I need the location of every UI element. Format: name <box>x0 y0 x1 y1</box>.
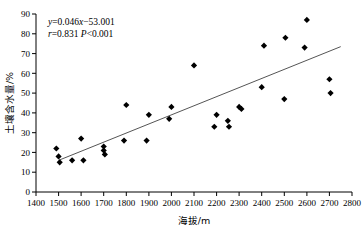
data-point-marker <box>304 17 310 23</box>
equation-tail: −53.001 <box>83 17 115 27</box>
y-axis-ticks <box>32 14 36 192</box>
x-tick-label: 1400 <box>27 198 46 208</box>
data-point-marker <box>226 124 232 130</box>
data-point-marker <box>168 104 174 110</box>
x-tick-label: 2100 <box>185 198 204 208</box>
x-tick-label: 2000 <box>162 198 181 208</box>
y-tick-label: 70 <box>21 49 31 59</box>
x-tick-label: 1700 <box>95 198 114 208</box>
equation-body: =0.046 <box>52 17 79 27</box>
data-point-marker <box>80 157 86 163</box>
x-tick-label: 1900 <box>140 198 159 208</box>
data-point-marker <box>213 112 219 118</box>
data-point-marker <box>121 137 127 143</box>
statistics-annotation: r=0.831 P<0.001 <box>48 29 114 39</box>
data-point-marker <box>146 112 152 118</box>
y-tick-label: 60 <box>21 69 31 79</box>
x-tick-label: 2500 <box>275 198 294 208</box>
axis-lines <box>36 14 352 192</box>
data-point-marker <box>53 145 59 151</box>
scatter-points <box>53 17 333 166</box>
y-axis-title: 土壤含水量/% <box>4 72 15 134</box>
y-tick-label: 50 <box>21 88 31 98</box>
data-point-marker <box>327 90 333 96</box>
data-point-marker <box>326 76 332 82</box>
data-point-marker <box>57 159 63 165</box>
y-tick-label: 80 <box>21 29 31 39</box>
y-tick-label: 90 <box>21 9 31 19</box>
data-point-marker <box>302 45 308 51</box>
x-axis-tick-labels: 1400 1500 1600 1700 1800 1900 2000 2100 … <box>27 198 362 208</box>
y-tick-label: 0 <box>26 187 31 197</box>
y-axis-tick-labels: 0 10 20 30 40 50 60 70 80 90 <box>21 9 31 197</box>
y-tick-label: 40 <box>21 108 31 118</box>
trendline-segment <box>59 47 341 161</box>
data-point-marker <box>78 136 84 142</box>
regression-equation-annotation: y=0.046x−53.001 <box>47 17 115 27</box>
chart-figure: 0 10 20 30 40 50 60 70 80 90 <box>0 0 364 234</box>
x-tick-label: 2800 <box>343 198 362 208</box>
data-point-marker <box>191 62 197 68</box>
x-tick-label: 2300 <box>230 198 249 208</box>
data-point-marker <box>259 84 265 90</box>
x-tick-label: 1800 <box>117 198 136 208</box>
x-axis-title: 海拔/m <box>178 215 210 226</box>
data-point-marker <box>69 157 75 163</box>
x-tick-label: 1600 <box>72 198 91 208</box>
y-tick-label: 10 <box>21 167 31 177</box>
scatter-plot: 0 10 20 30 40 50 60 70 80 90 <box>0 0 364 234</box>
data-point-marker <box>225 118 231 124</box>
x-tick-label: 2700 <box>320 198 339 208</box>
stats-r-value: =0.831 <box>52 29 79 39</box>
data-point-marker <box>55 153 61 159</box>
y-tick-label: 30 <box>21 128 31 138</box>
x-tick-label: 1500 <box>50 198 69 208</box>
data-point-marker <box>144 137 150 143</box>
data-point-marker <box>123 102 129 108</box>
x-axis-ticks <box>36 192 352 196</box>
stats-p-value: <0.001 <box>87 29 114 39</box>
x-tick-label: 2600 <box>298 198 317 208</box>
data-point-marker <box>282 35 288 41</box>
data-point-marker <box>281 96 287 102</box>
data-point-marker <box>261 43 267 49</box>
regression-trendline <box>59 47 341 161</box>
y-tick-label: 20 <box>21 148 31 158</box>
x-tick-label: 2400 <box>253 198 272 208</box>
x-tick-label: 2200 <box>208 198 227 208</box>
data-point-marker <box>211 124 217 130</box>
